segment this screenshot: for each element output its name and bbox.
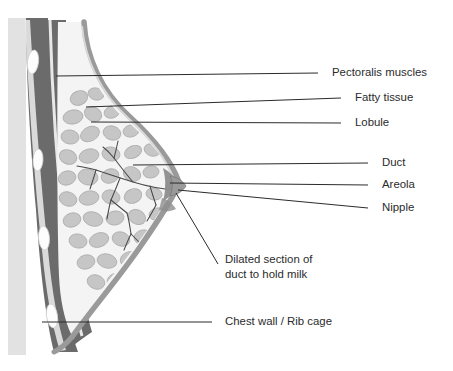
label-pectoralis-muscles: Pectoralis muscles — [332, 66, 427, 78]
nipple — [170, 176, 186, 196]
label-lobule: Lobule — [355, 116, 389, 128]
lobule — [140, 248, 160, 265]
label-nipple: Nipple — [382, 201, 414, 213]
label-chest-wall-rib-cage: Chest wall / Rib cage — [225, 315, 332, 327]
label-fatty-tissue: Fatty tissue — [355, 91, 413, 103]
label-areola: Areola — [382, 178, 416, 190]
label-duct: Duct — [382, 156, 406, 168]
chest-wall-band — [8, 18, 26, 355]
lobule — [120, 288, 141, 307]
leader-line-fatty-tissue — [86, 98, 341, 107]
lobule — [128, 268, 149, 286]
breast-anatomy-diagram: Pectoralis muscles Fatty tissue Lobule D… — [0, 0, 453, 371]
label-dilated-section-line1: Dilated section of — [225, 253, 313, 265]
lobule — [149, 265, 168, 282]
leader-line-nipple — [178, 190, 368, 208]
leader-line-dilated-section — [176, 193, 218, 264]
lobule — [141, 285, 159, 300]
anatomy-illustration: Pectoralis muscles Fatty tissue Lobule D… — [0, 0, 453, 371]
lobule — [159, 244, 178, 260]
label-dilated-section-line2: duct to hold milk — [225, 268, 308, 280]
lobule — [153, 225, 172, 242]
leader-line-areola — [170, 183, 368, 185]
